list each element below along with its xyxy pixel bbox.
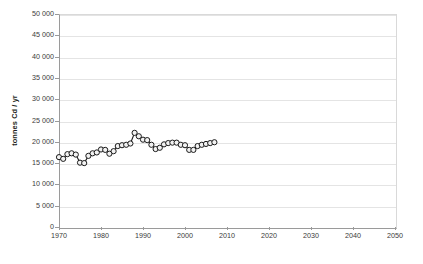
x-axis-tick-label: 1980 (81, 231, 121, 240)
gridline (60, 58, 396, 59)
y-axis-tick-label: 30 000 (0, 94, 54, 103)
gridline (60, 15, 396, 16)
x-axis-tick-label: 2020 (249, 231, 289, 240)
plot-area (59, 14, 397, 229)
gridline (60, 207, 396, 208)
x-axis-tick-label: 2050 (375, 231, 415, 240)
gridline (60, 143, 396, 144)
x-axis-tick-mark (185, 227, 186, 230)
y-axis-tick-label: 25 000 (0, 116, 54, 125)
gridline (60, 79, 396, 80)
x-axis-tick-label: 2010 (207, 231, 247, 240)
chart-container: tonnes Cd / yr 05 00010 00015 00020 0002… (0, 0, 423, 264)
y-axis-tick-label: 15 000 (0, 158, 54, 167)
y-axis-tick-label: 0 (0, 222, 54, 231)
x-axis-tick-label: 2000 (165, 231, 205, 240)
x-axis-tick-mark (101, 227, 102, 230)
x-axis-tick-label: 1970 (39, 231, 79, 240)
gridline (60, 100, 396, 101)
x-axis-tick-mark (395, 227, 396, 230)
x-axis-tick-mark (59, 227, 60, 230)
y-axis-tick-label: 35 000 (0, 73, 54, 82)
x-axis-tick-mark (311, 227, 312, 230)
x-axis-tick-mark (269, 227, 270, 230)
y-axis-tick-label: 10 000 (0, 179, 54, 188)
y-axis-tick-label: 20 000 (0, 137, 54, 146)
x-axis-tick-mark (353, 227, 354, 230)
x-axis-tick-label: 2030 (291, 231, 331, 240)
gridline (60, 164, 396, 165)
x-axis-tick-label: 2040 (333, 231, 373, 240)
gridline (60, 36, 396, 37)
x-axis-tick-label: 1990 (123, 231, 163, 240)
gridline (60, 185, 396, 186)
y-axis-tick-label: 45 000 (0, 30, 54, 39)
y-axis-tick-label: 40 000 (0, 52, 54, 61)
x-axis-tick-mark (227, 227, 228, 230)
y-axis-tick-label: 50 000 (0, 9, 54, 18)
x-axis-tick-mark (143, 227, 144, 230)
gridline (60, 122, 396, 123)
y-axis-tick-label: 5 000 (0, 201, 54, 210)
